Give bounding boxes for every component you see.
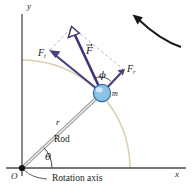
force-tangential-vector [49,50,102,93]
mass-label: m [112,90,118,98]
rotation-axis-leader-line [24,170,47,179]
physics-diagram-rotating-rod: y x O Rotation axis Rod r θ ϕ m Ft Fr F [0,0,196,191]
rod-label: Rod [54,135,70,145]
diagram-graphics [0,0,196,191]
force-total-vector [68,27,102,94]
phi-label: ϕ [99,70,106,80]
point-mass-ball [93,84,110,101]
force-radial-label: Fr [127,64,136,75]
force-total-label: F [86,45,93,56]
x-axis-label: x [175,170,179,179]
force-tangential-subscript: t [44,52,46,59]
rotation-direction-arrow [133,15,182,48]
radius-label: r [56,118,60,127]
force-total-symbol: F [86,44,93,56]
rod-shape [22,93,102,168]
theta-label: θ [45,152,51,162]
force-radial-subscript: r [133,68,135,75]
y-axis-label: y [27,2,31,11]
rotation-axis-label: Rotation axis [52,174,102,184]
origin-label: O [11,172,18,181]
force-tangential-label: Ft [38,48,46,59]
